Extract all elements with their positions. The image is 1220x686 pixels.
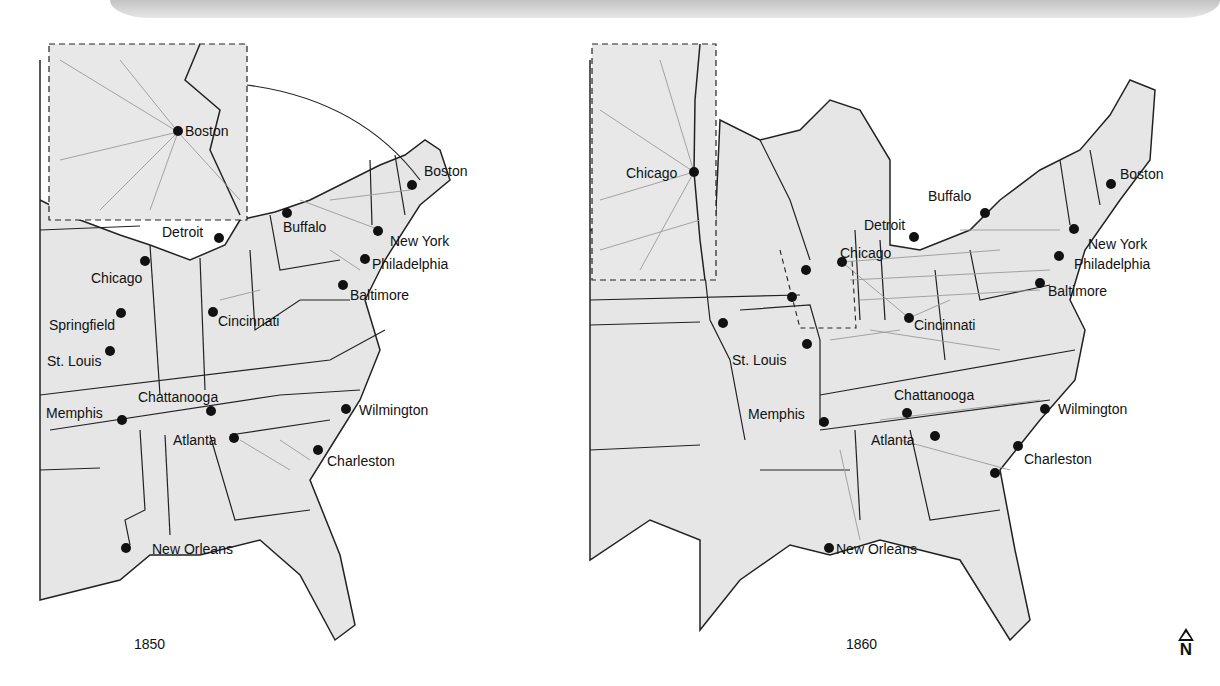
city-dot (802, 339, 812, 349)
year-label-1860: 1860 (846, 636, 877, 652)
map-panel-1860: ChicagoBostonBuffaloDetroitChicagoNew Yo… (0, 0, 1220, 686)
city-label: Cincinnati (914, 317, 975, 333)
city-dot (824, 543, 834, 553)
city-dot (1013, 441, 1023, 451)
city-dot (1040, 404, 1050, 414)
city-label: St. Louis (732, 352, 786, 368)
north-arrow: N (1176, 628, 1196, 659)
city-dot (930, 431, 940, 441)
city-dot (1054, 251, 1064, 261)
city-dot (718, 318, 728, 328)
city-label: New York (1088, 236, 1147, 252)
city-label: Philadelphia (1074, 256, 1150, 272)
city-dot (689, 167, 699, 177)
city-label: Memphis (748, 406, 805, 422)
city-dot (909, 232, 919, 242)
city-dot (1106, 179, 1116, 189)
city-label: New Orleans (836, 541, 917, 557)
north-triangle-icon (1178, 628, 1194, 641)
city-dot (1069, 224, 1079, 234)
city-dot (787, 292, 797, 302)
city-label: Boston (1120, 166, 1164, 182)
city-label: Chicago (626, 165, 677, 181)
city-label: Atlanta (871, 432, 915, 448)
city-dot (819, 417, 829, 427)
city-label: Baltimore (1048, 283, 1107, 299)
map-1860-geography (0, 0, 1220, 686)
city-dot (904, 313, 914, 323)
city-label: Wilmington (1058, 401, 1127, 417)
city-dot (980, 208, 990, 218)
north-label: N (1176, 641, 1196, 659)
city-dot (1035, 278, 1045, 288)
city-dot (902, 408, 912, 418)
city-label: Chicago (840, 245, 891, 261)
city-label: Chattanooga (894, 387, 974, 403)
city-dot (990, 468, 1000, 478)
city-label: Detroit (864, 217, 905, 233)
city-label: Charleston (1024, 451, 1092, 467)
city-label: Buffalo (928, 188, 971, 204)
city-dot (801, 265, 811, 275)
